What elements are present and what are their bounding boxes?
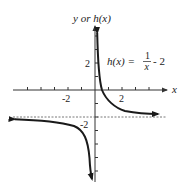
curve-right-branch	[97, 33, 158, 114]
equation-label: h(x) = 1 x - 2	[107, 50, 165, 72]
tick-label-x-pos2: 2	[119, 93, 124, 104]
function-graph: y or h(x) x h(x) = 1 x - 2 -2 2 2 -2	[0, 0, 190, 189]
equation-rhs: - 2	[153, 55, 165, 67]
equation-numerator: 1	[145, 50, 150, 61]
equation-lhs: h(x) =	[107, 55, 135, 68]
x-axis	[13, 87, 167, 90]
tick-label-x-neg2: -2	[62, 93, 70, 104]
equation-denominator: x	[144, 61, 150, 72]
y-axis-label: y or h(x)	[72, 12, 111, 25]
x-axis-label: x	[171, 83, 177, 95]
tick-label-y-pos2: 2	[85, 58, 90, 69]
tick-label-y-neg2: -2	[80, 119, 88, 130]
